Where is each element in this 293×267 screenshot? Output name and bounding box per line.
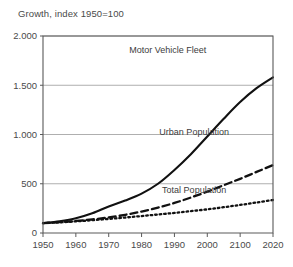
y-tick-label: 1.500 bbox=[13, 80, 37, 91]
x-tick-label: 2020 bbox=[262, 239, 283, 250]
series-line-motor-vehicle-fleet bbox=[43, 77, 273, 223]
growth-index-chart: Growth, index 1950=100 05001.0001.5002.0… bbox=[0, 0, 293, 267]
x-tick-label: 1970 bbox=[98, 239, 119, 250]
x-tick-label: 1990 bbox=[164, 239, 185, 250]
y-tick-label: 500 bbox=[21, 178, 37, 189]
x-axis-tick-labels: 19501960197019801990200021002020 bbox=[32, 239, 283, 250]
y-tick-label: 1.000 bbox=[13, 129, 37, 140]
x-tick-label: 1950 bbox=[32, 239, 53, 250]
series-label-total-population: Total Population bbox=[162, 185, 226, 195]
x-tick-label: 2100 bbox=[230, 239, 251, 250]
x-tick-label: 1960 bbox=[65, 239, 86, 250]
series-label-urban-population: Urban Population bbox=[159, 127, 229, 137]
x-tick-label: 2000 bbox=[197, 239, 218, 250]
y-tick-label: 0 bbox=[32, 227, 37, 238]
x-axis-ticks bbox=[43, 233, 273, 237]
x-tick-label: 1980 bbox=[131, 239, 152, 250]
series-labels: Motor Vehicle FleetUrban PopulationTotal… bbox=[129, 45, 229, 195]
gridlines bbox=[43, 36, 273, 184]
series-label-motor-vehicle-fleet: Motor Vehicle Fleet bbox=[129, 45, 207, 55]
y-axis-tick-labels: 05001.0001.5002.000 bbox=[13, 30, 43, 238]
series-line-total-population bbox=[43, 200, 273, 223]
chart-plot-area: 05001.0001.5002.000 19501960197019801990… bbox=[0, 0, 293, 267]
series-line-urban-population bbox=[43, 165, 273, 223]
series-lines bbox=[43, 77, 273, 223]
y-tick-label: 2.000 bbox=[13, 30, 37, 41]
